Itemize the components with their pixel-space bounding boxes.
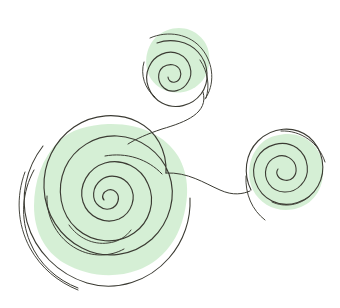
blob-large-bottom-left	[34, 124, 187, 275]
spiral-sketch-svg	[0, 0, 340, 308]
artwork-canvas	[0, 0, 340, 308]
blob-right	[249, 134, 323, 210]
blob-layer	[34, 28, 323, 275]
